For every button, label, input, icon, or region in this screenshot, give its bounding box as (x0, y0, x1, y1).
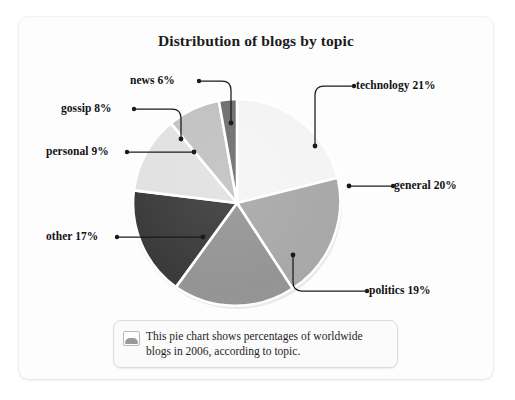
pie-label-technology: technology 21% (356, 79, 436, 91)
pie-label-gossip: gossip 8% (61, 102, 112, 114)
chart-card: Distribution of blogs by topic (19, 17, 493, 379)
pie-label-politics: politics 19% (369, 284, 431, 296)
leader-anchor-personal (125, 150, 129, 154)
caption-text: This pie chart shows percentages of worl… (146, 329, 387, 359)
leader-anchor-news (197, 79, 201, 83)
pie-label-other: other 17% (46, 230, 98, 242)
pie-label-personal: personal 9% (46, 145, 109, 157)
leader-dot-personal (192, 150, 197, 155)
leader-dot-technology (313, 144, 318, 149)
leader-line-technology (315, 86, 352, 146)
chart-caption: This pie chart shows percentages of worl… (113, 320, 398, 368)
image-icon (123, 331, 140, 346)
page-root: Distribution of blogs by topic (0, 0, 515, 400)
leader-dot-other (201, 235, 206, 240)
pie-label-general: general 20% (394, 179, 457, 191)
leader-anchor-gossip (132, 107, 136, 111)
leader-dot-politics (291, 253, 296, 258)
leader-dot-news (229, 121, 234, 126)
pie-label-news: news 6% (130, 74, 175, 86)
leader-dot-gossip (179, 137, 184, 142)
leader-anchor-other (115, 235, 119, 239)
leader-dot-general (347, 184, 352, 189)
pie-shading-overlay (133, 99, 341, 307)
